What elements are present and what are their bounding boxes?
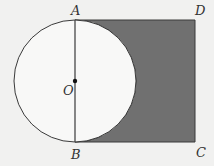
label-c: C bbox=[196, 145, 206, 160]
label-o: O bbox=[63, 83, 74, 98]
label-d: D bbox=[194, 3, 206, 18]
geometry-diagram: A D O B C bbox=[0, 0, 214, 166]
label-b: B bbox=[70, 147, 81, 162]
label-a: A bbox=[70, 3, 80, 18]
